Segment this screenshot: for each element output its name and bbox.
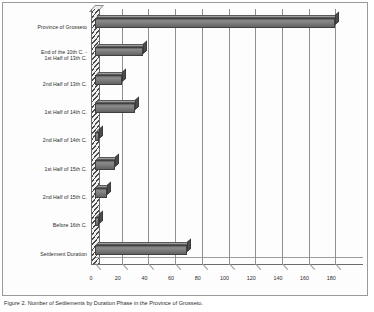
bar-side-face (187, 239, 191, 252)
gridline (148, 9, 149, 264)
value-axis-tick-label: 160 (295, 275, 315, 281)
bar-side-face (135, 97, 139, 110)
category-axis-label: 1st Half of 14th C. (7, 109, 87, 116)
figure-caption: Figure 2. Number of Settlements by Durat… (4, 300, 370, 311)
bar-front-face (95, 75, 122, 85)
figure-container: Province of GrossetoEnd of the 10th C. -… (0, 0, 374, 312)
category-axis: Province of GrossetoEnd of the 10th C. -… (7, 11, 87, 269)
category-axis-label: Province of Grosseto (7, 24, 87, 31)
value-axis-tick-label: 100 (215, 275, 235, 281)
bar-side-face (335, 12, 339, 25)
bar[interactable] (95, 245, 187, 255)
bar-front-face (95, 160, 115, 170)
value-axis-tick-label: 80 (188, 275, 208, 281)
gridline (309, 9, 310, 264)
bar-side-face (122, 69, 126, 82)
bar[interactable] (95, 18, 335, 28)
bar[interactable] (95, 47, 143, 57)
bar-front-face (95, 217, 99, 227)
bar-side-face (99, 125, 103, 138)
bar-side-face (143, 40, 147, 53)
bar-front-face (95, 18, 335, 28)
bar-front-face (95, 132, 99, 142)
bar[interactable] (95, 160, 115, 170)
bar-front-face (95, 188, 107, 198)
category-axis-label: 2nd Half of 14th C. (7, 137, 87, 144)
gridline (229, 9, 230, 264)
value-axis-tick-label: 140 (268, 275, 288, 281)
bar[interactable] (95, 217, 99, 227)
gridline (335, 9, 336, 264)
gridline (175, 9, 176, 264)
category-axis-label: End of the 10th C. - 1st Half of 13th C. (7, 49, 87, 62)
axis-baseline (91, 264, 363, 265)
gridline (282, 9, 283, 264)
gridline (255, 9, 256, 264)
bar-side-face (107, 182, 111, 195)
value-axis-tick-label: 60 (161, 275, 181, 281)
plot-area: 020406080100120140160180 (91, 9, 363, 277)
bar-side-face (99, 210, 103, 223)
value-axis-tick-label: 0 (81, 275, 101, 281)
bar-front-face (95, 245, 187, 255)
value-axis-tick-label: 40 (134, 275, 154, 281)
floor-back-edge (96, 257, 363, 258)
bar-front-face (95, 47, 143, 57)
bar[interactable] (95, 132, 99, 142)
category-axis-label: 2nd Half of 13th C. (7, 81, 87, 88)
category-axis-label: 2nd Half of 15th C. (7, 194, 87, 201)
bar[interactable] (95, 188, 107, 198)
value-axis-tick-label: 180 (321, 275, 341, 281)
category-axis-label: 1st Half of 15th C. (7, 166, 87, 173)
bar-front-face (95, 103, 135, 113)
bar-side-face (115, 154, 119, 167)
value-axis-tick-label: 120 (241, 275, 261, 281)
gridline (202, 9, 203, 264)
bar[interactable] (95, 75, 122, 85)
value-axis-tick-label: 20 (108, 275, 128, 281)
chart-frame: Province of GrossetoEnd of the 10th C. -… (2, 2, 368, 296)
bar[interactable] (95, 103, 135, 113)
category-axis-label: Before 16th C. (7, 222, 87, 229)
category-axis-label: Settlement Duration (7, 251, 87, 258)
